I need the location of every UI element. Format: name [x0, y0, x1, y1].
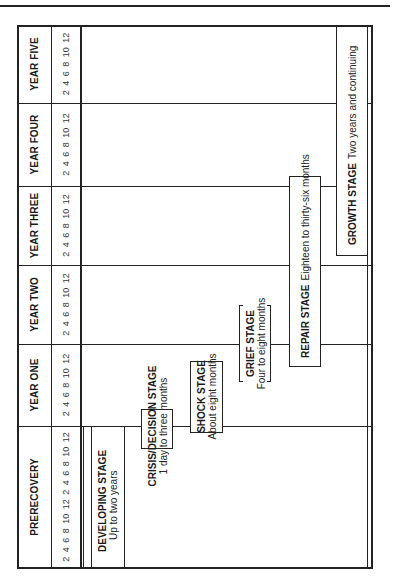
growth-stage-title: GROWTH STAGE [347, 163, 358, 245]
grief-stage: GRIEF STAGE Four to eight months [240, 305, 271, 382]
developing-stage: DEVELOPING STAGE Up to two years [93, 412, 123, 552]
period-label-year-four: YEAR FOUR [29, 103, 40, 186]
header-double-line-b [83, 426, 84, 569]
repair-stage-title: REPAIR STAGE [300, 284, 311, 358]
grief-stage-title: GRIEF STAGE [245, 310, 256, 377]
period-ticks-year-four: 2 4 6 8 10 12 [61, 103, 71, 186]
period-label-year-three: YEAR THREE [29, 186, 40, 265]
period-label-year-two: YEAR TWO [29, 265, 40, 344]
header-double-line-a [80, 25, 82, 569]
developing-stage-right [124, 426, 125, 568]
crisis-stage-duration: 1 day to three months [158, 378, 169, 475]
period-ticks-year-three: 2 4 6 8 10 12 [61, 186, 71, 265]
shock-stage-title: SHOCK STAGE [196, 360, 207, 433]
repair-stage: REPAIR STAGE Eighteen to thirty-six mont… [290, 178, 320, 358]
period-ticks-year-two: 2 4 6 8 10 12 [61, 265, 71, 344]
period-label-year-one: YEAR ONE [29, 344, 40, 426]
growth-stage: GROWTH STAGE Two years and continuing [337, 30, 367, 245]
header-title-divider [51, 25, 52, 569]
crisis-stage: CRISIS/DECISION STAGE 1 day to three mon… [143, 376, 173, 476]
developing-stage-left [91, 426, 92, 568]
repair-stage-duration: Eighteen to thirty-six months [300, 154, 311, 280]
crisis-stage-title: CRISIS/DECISION STAGE [147, 366, 158, 487]
period-label-year-five: YEAR FIVE [29, 25, 40, 103]
developing-stage-title: DEVELOPING STAGE [97, 450, 108, 552]
shock-stage: SHOCK STAGE About eight months [191, 361, 222, 432]
period-ticks-prerecovery: 2 4 6 8 10 12 2 4 6 8 10 12 [61, 426, 71, 568]
developing-stage-duration: Up to two years [108, 471, 119, 552]
period-label-prerecovery: PRERECOVERY [29, 426, 40, 568]
period-ticks-year-five: 2 4 6 8 10 12 [61, 25, 71, 103]
grief-stage-duration: Four to eight months [256, 298, 267, 390]
period-ticks-year-one: 2 4 6 8 10 12 [61, 344, 71, 426]
growth-stage-duration: Two years and continuing [347, 46, 358, 159]
shock-stage-duration: About eight months [207, 353, 218, 439]
top-rule [0, 5, 390, 7]
